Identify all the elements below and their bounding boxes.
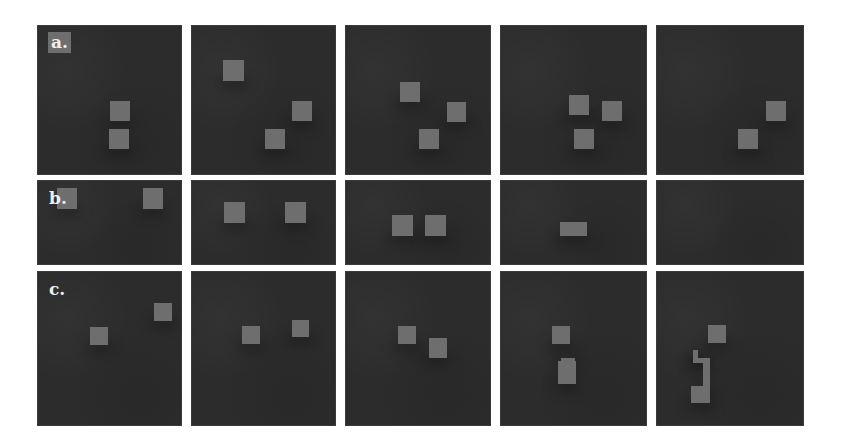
block [766, 101, 786, 121]
panel-row-2-col-3 [345, 180, 491, 265]
panel-row-3-col-2 [191, 271, 336, 426]
block [602, 101, 622, 121]
block [569, 95, 589, 115]
panel-row-3-col-5 [656, 271, 804, 426]
block [552, 326, 570, 344]
block [419, 129, 439, 149]
block [143, 188, 163, 209]
block [561, 358, 575, 363]
block [425, 215, 446, 236]
block [285, 202, 306, 223]
figure-grid: a.b.c. [0, 0, 842, 446]
row-label: b. [49, 190, 67, 207]
block [292, 101, 312, 121]
panel-row-3-col-4 [500, 271, 647, 426]
block [154, 303, 172, 321]
block [223, 60, 244, 81]
row-label: c. [49, 281, 65, 298]
panel-row-1-col-4 [500, 25, 647, 175]
block [560, 222, 587, 236]
block [242, 326, 260, 344]
row-label: a. [48, 32, 71, 53]
panel-row-1-col-1: a. [37, 25, 182, 175]
panel-row-1-col-2 [191, 25, 336, 175]
block [265, 129, 285, 149]
block [292, 320, 309, 337]
block [708, 325, 726, 343]
block [224, 202, 245, 223]
panel-row-2-col-1: b. [37, 180, 182, 265]
block [400, 82, 420, 102]
panel-row-2-col-5 [656, 180, 804, 265]
panel-row-3-col-1: c. [37, 271, 182, 426]
panel-row-1-col-3 [345, 25, 491, 175]
panel-row-1-col-5 [656, 25, 804, 175]
block [691, 386, 710, 403]
block [110, 101, 130, 121]
block [447, 102, 466, 122]
block [109, 129, 129, 149]
block [398, 326, 416, 344]
block [392, 215, 413, 236]
panel-row-3-col-3 [345, 271, 491, 426]
block [90, 327, 108, 345]
panel-row-2-col-2 [191, 180, 336, 265]
block [429, 338, 447, 358]
block [693, 350, 698, 358]
block [558, 361, 576, 384]
panel-row-2-col-4 [500, 180, 647, 265]
block [738, 129, 758, 149]
block [574, 129, 594, 149]
